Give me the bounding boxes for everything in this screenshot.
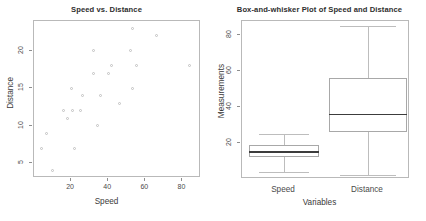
scatter-point bbox=[81, 94, 84, 97]
scatter-point bbox=[135, 64, 138, 67]
scatter-point bbox=[96, 124, 99, 127]
boxplot-median-line bbox=[329, 114, 407, 116]
boxplot-whisker-cap bbox=[340, 175, 396, 176]
scatter-point bbox=[70, 87, 73, 90]
scatter-x-tick-label: 40 bbox=[103, 183, 111, 190]
boxplot-box bbox=[329, 78, 407, 132]
scatter-title: Speed vs. Distance bbox=[0, 5, 213, 14]
scatter-point bbox=[79, 109, 82, 112]
boxplot-y-tick bbox=[237, 70, 240, 71]
scatter-plot-area bbox=[34, 21, 199, 176]
scatter-point bbox=[188, 64, 191, 67]
boxplot-median-line bbox=[249, 151, 319, 153]
scatter-point bbox=[45, 132, 48, 135]
scatter-y-tick-label: 5 bbox=[17, 160, 24, 164]
scatter-point bbox=[131, 87, 134, 90]
scatter-x-tick bbox=[107, 178, 108, 181]
boxplot-x-axis-title: Variables bbox=[213, 198, 426, 207]
boxplot-plot-frame bbox=[241, 20, 409, 178]
boxplot-plot-area bbox=[242, 21, 408, 177]
scatter-x-tick bbox=[70, 178, 71, 181]
scatter-point bbox=[92, 49, 95, 52]
scatter-point bbox=[92, 72, 95, 75]
boxplot-whisker-cap bbox=[259, 134, 309, 135]
scatter-y-tick bbox=[29, 87, 32, 88]
scatter-point bbox=[40, 147, 43, 150]
boxplot-y-tick bbox=[237, 106, 240, 107]
scatter-y-tick-label: 15 bbox=[17, 83, 24, 91]
two-panel-figure: Speed vs. Distance 20406080 5101520 Spee… bbox=[0, 0, 426, 221]
scatter-y-tick-label: 20 bbox=[17, 46, 24, 54]
scatter-x-tick-label: 20 bbox=[66, 183, 74, 190]
boxplot-y-tick-label: 80 bbox=[225, 30, 232, 38]
boxplot-whisker-cap bbox=[259, 172, 309, 173]
scatter-point bbox=[107, 72, 110, 75]
scatter-point bbox=[131, 27, 134, 30]
boxplot-category-label: Distance bbox=[351, 185, 383, 194]
boxplot-y-tick-label: 20 bbox=[225, 138, 232, 146]
scatter-y-tick bbox=[29, 125, 32, 126]
scatter-point bbox=[62, 109, 65, 112]
scatter-point bbox=[99, 94, 102, 97]
scatter-panel: Speed vs. Distance 20406080 5101520 Spee… bbox=[0, 0, 213, 221]
scatter-x-tick bbox=[144, 178, 145, 181]
scatter-x-tick bbox=[181, 178, 182, 181]
scatter-point bbox=[155, 34, 158, 37]
scatter-point bbox=[73, 147, 76, 150]
scatter-point bbox=[66, 117, 69, 120]
scatter-point bbox=[71, 109, 74, 112]
boxplot-y-tick-label: 40 bbox=[225, 102, 232, 110]
scatter-x-axis-title: Speed bbox=[0, 197, 213, 206]
scatter-y-tick-label: 10 bbox=[17, 121, 24, 129]
scatter-point bbox=[129, 49, 132, 52]
scatter-y-axis-title: Distance bbox=[6, 77, 15, 109]
scatter-y-tick bbox=[29, 162, 32, 163]
boxplot-whisker-cap bbox=[340, 26, 396, 27]
boxplot-y-tick-label: 60 bbox=[225, 66, 232, 74]
scatter-x-tick-label: 60 bbox=[140, 183, 148, 190]
scatter-point bbox=[51, 169, 54, 172]
scatter-point bbox=[110, 64, 113, 67]
scatter-point bbox=[118, 102, 121, 105]
scatter-y-tick bbox=[29, 50, 32, 51]
boxplot-panel: Box-and-whisker Plot of Speed and Distan… bbox=[213, 0, 426, 221]
boxplot-y-tick bbox=[237, 142, 240, 143]
boxplot-y-tick bbox=[237, 34, 240, 35]
boxplot-category-label: Speed bbox=[271, 185, 295, 194]
scatter-plot-frame bbox=[33, 20, 200, 177]
scatter-x-tick-label: 80 bbox=[178, 183, 186, 190]
boxplot-y-axis-title: Measurements bbox=[217, 64, 226, 118]
boxplot-title: Box-and-whisker Plot of Speed and Distan… bbox=[213, 5, 426, 14]
